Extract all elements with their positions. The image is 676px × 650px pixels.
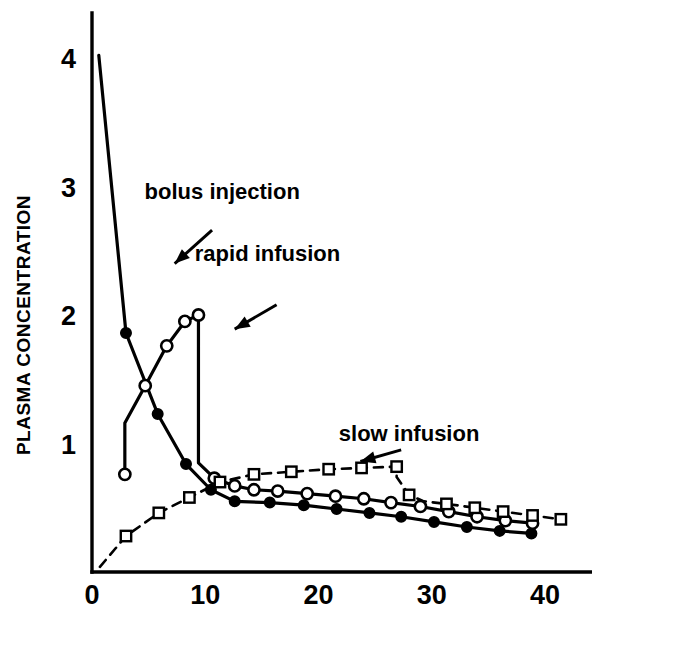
data-point-marker	[181, 459, 191, 469]
data-point-marker	[184, 492, 194, 502]
data-point-marker	[302, 488, 313, 499]
x-tick-label: 10	[190, 580, 220, 610]
y-axis-title-text: PLASMA CONCENTRATION	[13, 195, 34, 455]
data-point-marker	[140, 380, 151, 391]
data-point-marker	[364, 508, 374, 518]
data-point-marker	[179, 316, 190, 327]
data-point-marker	[154, 508, 164, 518]
data-point-marker	[265, 497, 275, 507]
data-point-marker	[121, 328, 131, 338]
data-point-marker	[330, 491, 341, 502]
data-point-marker	[229, 480, 240, 491]
data-point-marker	[385, 497, 396, 508]
data-point-marker	[429, 517, 439, 527]
data-point-marker	[356, 463, 366, 473]
annotation-label: rapid infusion	[195, 241, 340, 266]
y-tick-label: 1	[61, 430, 76, 460]
data-point-marker	[249, 469, 259, 479]
data-point-marker	[556, 514, 566, 524]
data-point-marker	[299, 500, 309, 510]
annotation-label: bolus injection	[145, 179, 300, 204]
x-tick-label: 30	[417, 580, 447, 610]
data-point-marker	[331, 504, 341, 514]
data-point-marker	[248, 484, 259, 495]
data-point-marker	[121, 531, 131, 541]
data-point-marker	[229, 496, 239, 506]
data-point-marker	[215, 477, 225, 487]
data-point-marker	[396, 512, 406, 522]
data-point-marker	[498, 506, 508, 516]
y-tick-label: 2	[61, 301, 76, 331]
plasma-concentration-plot: bolus injectionrapid infusionslow infusi…	[0, 0, 676, 650]
data-point-marker	[161, 340, 172, 351]
annotation-label: slow infusion	[339, 421, 480, 446]
data-point-marker	[119, 469, 130, 480]
data-point-marker	[272, 485, 283, 496]
data-point-marker	[286, 467, 296, 477]
data-point-marker	[152, 409, 162, 419]
chart-figure: bolus injectionrapid infusionslow infusi…	[0, 0, 676, 650]
y-axis-title: PLASMA CONCENTRATION	[13, 195, 34, 455]
data-point-marker	[391, 461, 401, 471]
data-point-marker	[495, 526, 505, 536]
data-point-marker	[358, 493, 369, 504]
y-tick-label: 4	[61, 44, 76, 74]
data-point-marker	[323, 464, 333, 474]
data-point-marker	[470, 503, 480, 513]
x-tick-label: 0	[84, 580, 99, 610]
data-point-marker	[404, 490, 414, 500]
x-tick-label: 40	[530, 580, 560, 610]
data-point-marker	[462, 522, 472, 532]
data-point-marker	[193, 309, 204, 320]
data-point-marker	[527, 510, 537, 520]
y-tick-label: 3	[61, 173, 76, 203]
data-point-marker	[441, 499, 451, 509]
x-tick-label: 20	[303, 580, 333, 610]
